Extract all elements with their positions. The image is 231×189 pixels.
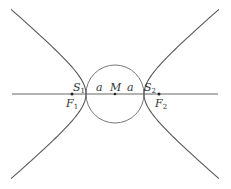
label-s2: S2 [144, 81, 156, 95]
label-f1: F1 [65, 97, 78, 111]
label-a-right: a [127, 81, 134, 94]
label-a-left: a [96, 81, 103, 94]
focus-f2-point [158, 93, 161, 96]
hyperbola-diagram: S1 S2 F1 F2 M a a [0, 0, 231, 189]
label-f2: F2 [154, 97, 167, 111]
label-m: M [109, 81, 122, 94]
